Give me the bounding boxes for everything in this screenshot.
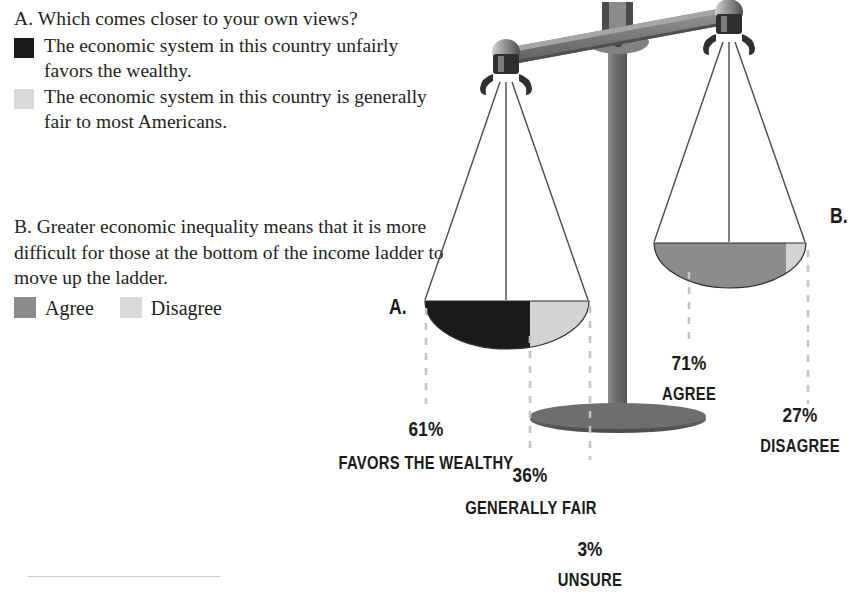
right-pan-segment-agree <box>650 236 786 302</box>
right-hook-right-icon <box>742 34 755 55</box>
callout-favors-the-wealthy-pct: 61% <box>377 418 475 440</box>
legend-label-generally-fair: The economic system in this country is g… <box>44 84 434 134</box>
callout-unsure-pct: 3% <box>541 538 639 560</box>
balance-scale-illustration <box>380 0 856 460</box>
left-hook-right-icon <box>519 74 532 95</box>
marker-a: A. <box>389 294 407 320</box>
callout-disagree-pct: 27% <box>751 404 849 426</box>
left-pan-group <box>420 294 594 364</box>
left-pan-segment-generally-fair <box>530 294 594 364</box>
swatch-generally-fair <box>14 89 34 109</box>
callout-unsure-label-wrap: UNSURE <box>510 566 670 590</box>
scale-post <box>608 30 627 420</box>
left-string-outer-left <box>425 82 500 300</box>
callout-disagree-label-wrap: DISAGREE <box>712 432 856 456</box>
question-a-heading: A. Which comes closer to your own views? <box>14 6 434 31</box>
callout-generally-fair-label-wrap: GENERALLY FAIR <box>400 494 662 518</box>
left-string-outer-right <box>512 82 588 300</box>
right-string-outer-left <box>654 42 723 242</box>
right-hanger-collar <box>716 14 742 34</box>
callout-disagree: 27% <box>740 404 856 426</box>
legend-label-favors-wealthy: The economic system in this country unfa… <box>44 33 434 83</box>
callout-agree-label-wrap: AGREE <box>629 380 749 404</box>
legend-label-agree: Agree <box>45 297 94 319</box>
callout-agree: 71% <box>629 352 749 374</box>
right-pan-group <box>650 236 812 302</box>
right-hook-left-icon <box>703 34 716 55</box>
callout-generally-fair-label: GENERALLY FAIR <box>424 498 639 518</box>
legend-label-disagree: Disagree <box>151 297 222 319</box>
right-hanger-group <box>654 0 805 242</box>
callout-generally-fair: 36% <box>470 464 590 486</box>
left-hanger-group <box>425 39 588 300</box>
callout-disagree-label: DISAGREE <box>728 436 856 456</box>
right-hanger-collar-highlight <box>721 16 727 32</box>
infographic-canvas: A. Which comes closer to your own views?… <box>0 0 856 594</box>
scale-base-top <box>530 403 706 429</box>
swatch-agree <box>14 297 36 318</box>
left-hanger-collar <box>493 54 519 74</box>
left-hanger-collar-highlight <box>498 56 504 72</box>
question-a-block: A. Which comes closer to your own views?… <box>14 6 434 134</box>
swatch-favors-wealthy <box>14 38 34 58</box>
swatch-disagree <box>120 297 142 318</box>
callout-unsure-label: UNSURE <box>524 570 655 590</box>
callout-unsure: 3% <box>530 538 650 560</box>
left-pan-segment-favors-wealthy <box>420 294 530 364</box>
callout-agree-pct: 71% <box>640 352 738 374</box>
left-hook-left-icon <box>480 74 493 95</box>
legend-item-generally-fair: The economic system in this country is g… <box>14 84 434 134</box>
legend-item-favors-wealthy: The economic system in this country unfa… <box>14 33 434 83</box>
marker-b: B. <box>830 203 848 229</box>
footer-rule <box>28 576 220 577</box>
callout-agree-label: AGREE <box>640 384 738 404</box>
right-string-outer-right <box>735 42 805 242</box>
callout-favors-the-wealthy: 61% <box>366 418 486 440</box>
callout-generally-fair-pct: 36% <box>481 464 579 486</box>
